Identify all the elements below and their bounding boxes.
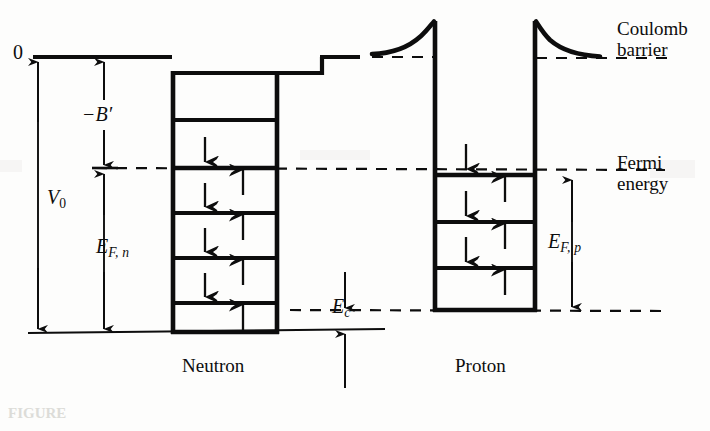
- coulomb-barrier-left-curve: [372, 22, 434, 55]
- figure-caption-cutoff: FIGURE: [8, 405, 66, 422]
- proton-well-group: [372, 21, 600, 312]
- well-depth-label: V0: [47, 186, 66, 211]
- coulomb-energy-label: Ec: [332, 295, 350, 320]
- binding-energy-label: −B′: [82, 103, 112, 125]
- coulomb-energy-symbol: E: [332, 295, 344, 317]
- coulomb-barrier-line-2: barrier: [617, 39, 688, 60]
- fermi-energy-annotation: Fermi energy: [617, 152, 668, 195]
- figure-root: 0 −B′ V0 EF, n Ec EF, p Neutron Proton C…: [0, 0, 710, 431]
- coulomb-barrier-line-1: Coulomb: [617, 18, 688, 39]
- fermi-neutron-label: EF, n: [96, 235, 129, 260]
- proton-spin-arrows: [466, 144, 505, 295]
- well-depth-symbol: V: [47, 186, 59, 208]
- neutron-well-group: [171, 71, 279, 334]
- fermi-proton-label: EF, p: [548, 230, 581, 255]
- proton-caption: Proton: [455, 355, 506, 376]
- coulomb-barrier-annotation: Coulomb barrier: [617, 18, 688, 61]
- fermi-neutron-subscript: F, n: [108, 245, 129, 260]
- fermi-proton-subscript: F, p: [560, 240, 581, 255]
- neutron-caption: Neutron: [182, 355, 244, 376]
- fermi-proton-symbol: E: [548, 230, 560, 252]
- potential-well-diagram: [0, 0, 710, 431]
- well-depth-subscript: 0: [59, 196, 66, 211]
- fermi-energy-line-2: energy: [617, 173, 668, 194]
- neutron-step-right: [277, 57, 360, 75]
- zero-energy-label: 0: [13, 41, 23, 63]
- fermi-neutron-symbol: E: [96, 235, 108, 257]
- coulomb-energy-subscript: c: [344, 305, 350, 320]
- fermi-energy-line-1: Fermi: [617, 152, 668, 173]
- coulomb-barrier-right-curve: [536, 22, 600, 57]
